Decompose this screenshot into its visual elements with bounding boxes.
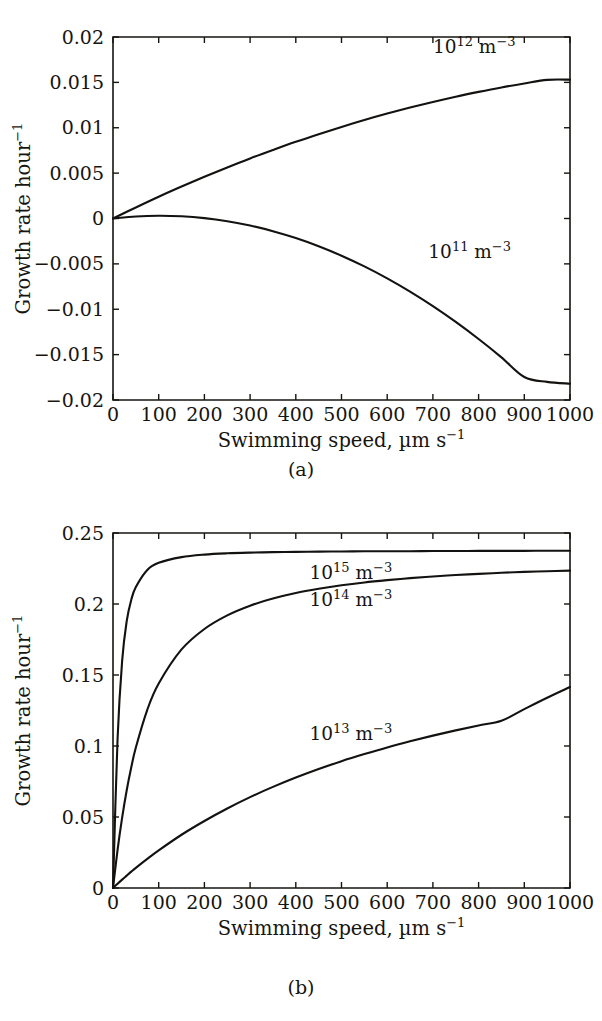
x-tick-label: 900 [506,891,542,913]
y-tick-label: 0 [92,207,104,229]
x-tick-label: 400 [278,403,314,425]
data-curve [113,687,570,888]
x-tick-label: 800 [460,891,496,913]
y-tick-label: 0.1 [74,735,104,757]
y-tick-label: 0 [92,877,104,899]
y-tick-label: 0.25 [62,522,104,544]
panel-b-caption: (b) [0,976,602,998]
x-tick-label: 1000 [546,403,594,425]
chart-panel-a: 010020030040050060070080090010000.020.01… [0,0,602,500]
panel-b-plot: 010020030040050060070080090010000.250.20… [0,496,602,1021]
y-tick-label: 0.015 [50,71,104,93]
y-tick-label: 0.01 [62,116,104,138]
series-annotation: 1011 m−3 [428,239,511,262]
chart-panel-b: 010020030040050060070080090010000.250.20… [0,496,602,1021]
data-curve [113,80,570,219]
y-tick-label: −0.005 [34,252,104,274]
y-tick-label: 0.005 [50,162,104,184]
y-tick-label: −0.02 [46,389,104,411]
y-tick-label: −0.015 [34,343,104,365]
x-tick-label: 700 [415,403,451,425]
x-tick-label: 300 [232,403,268,425]
series-annotation: 1015 m−3 [310,560,393,583]
panel-a-caption: (a) [0,458,602,480]
x-tick-label: 200 [186,891,222,913]
series-annotation: 1013 m−3 [310,721,393,744]
x-tick-label: 0 [107,403,119,425]
x-tick-label: 700 [415,891,451,913]
x-tick-label: 100 [141,403,177,425]
x-tick-label: 0 [107,891,119,913]
x-tick-label: 500 [323,891,359,913]
x-tick-label: 500 [323,403,359,425]
x-tick-label: 800 [460,403,496,425]
y-tick-label: −0.01 [46,298,104,320]
y-axis-title: Growth rate hour−1 [10,615,35,807]
x-axis-title: Swimming speed, µm s−1 [218,915,466,940]
x-axis-title: Swimming speed, µm s−1 [218,427,466,452]
y-tick-label: 0.2 [74,593,104,615]
x-tick-label: 1000 [546,891,594,913]
x-tick-label: 900 [506,403,542,425]
x-tick-label: 100 [141,891,177,913]
y-tick-label: 0.15 [62,664,104,686]
x-tick-label: 600 [369,891,405,913]
x-tick-label: 400 [278,891,314,913]
y-tick-label: 0.02 [62,26,104,48]
series-annotation: 1012 m−3 [433,34,516,57]
series-annotation: 1014 m−3 [310,587,393,610]
x-tick-label: 300 [232,891,268,913]
y-axis-title: Growth rate hour−1 [10,123,35,315]
y-tick-label: 0.05 [62,806,104,828]
plot-frame [113,37,570,400]
x-tick-label: 200 [186,403,222,425]
x-tick-label: 600 [369,403,405,425]
panel-a-plot: 010020030040050060070080090010000.020.01… [0,0,602,500]
